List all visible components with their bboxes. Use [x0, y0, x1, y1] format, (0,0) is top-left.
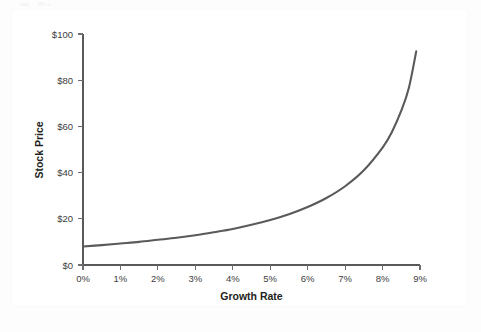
x-tick-label: 7%	[338, 273, 352, 284]
scan-artifact	[38, 2, 45, 6]
y-tick-label: $40	[57, 167, 73, 178]
x-tick-label: 3%	[188, 273, 202, 284]
stock-price-curve	[83, 51, 416, 246]
scan-artifact	[20, 3, 29, 6]
x-tick-label: 9%	[413, 273, 427, 284]
y-tick-label: $0	[62, 260, 73, 271]
y-axis-tick-labels: $0 $20 $40 $60 $80 $100	[52, 29, 73, 271]
y-tick-label: $80	[57, 75, 73, 86]
x-axis-tick-labels: 0% 1% 2% 3% 4% 5% 6% 7% 8% 9%	[76, 273, 427, 284]
chart-panel: $0 $20 $40 $60 $80 $100	[12, 10, 467, 306]
stock-price-vs-growth-rate-chart: $0 $20 $40 $60 $80 $100	[12, 10, 467, 306]
x-tick-label: 8%	[376, 273, 390, 284]
scan-artifact	[46, 4, 51, 6]
figure-container: $0 $20 $40 $60 $80 $100	[0, 0, 481, 332]
y-tick-label: $20	[57, 213, 73, 224]
y-axis-title: Stock Price	[33, 121, 45, 178]
x-axis-ticks	[83, 265, 420, 270]
x-tick-label: 4%	[226, 273, 240, 284]
x-tick-label: 0%	[76, 273, 90, 284]
x-axis-title: Growth Rate	[220, 290, 283, 302]
y-tick-label: $60	[57, 121, 73, 132]
y-tick-label: $100	[52, 29, 73, 40]
x-tick-label: 1%	[114, 273, 128, 284]
x-tick-label: 5%	[263, 273, 277, 284]
x-tick-label: 6%	[301, 273, 315, 284]
y-axis-ticks	[78, 34, 83, 265]
x-tick-label: 2%	[151, 273, 165, 284]
